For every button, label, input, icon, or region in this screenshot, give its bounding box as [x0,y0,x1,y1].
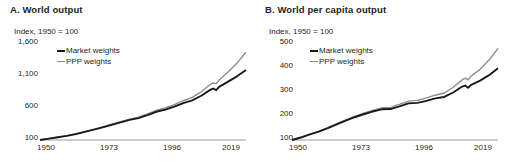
panel-b-world-per-capita-output: B. World per capita output Index, 1950 =… [255,0,509,164]
panel-b-plot [255,0,509,164]
figure-world-output: A. World output Index, 1950 = 100 1,600 … [0,0,509,164]
panel-a-plot [0,0,254,164]
panel-a-line-ppp-weights [40,52,246,140]
panel-a-world-output: A. World output Index, 1950 = 100 1,600 … [0,0,254,164]
panel-b-line-ppp-weights [292,48,498,140]
panel-a-line-market-weights [40,70,246,140]
